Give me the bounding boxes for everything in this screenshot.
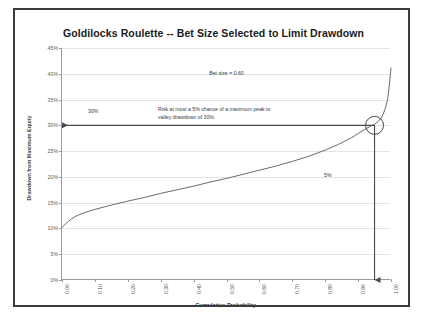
x-tick-label: 1.00 — [393, 284, 399, 294]
y-tick-label: 0% — [51, 277, 59, 283]
y-tick-label: 40% — [48, 71, 58, 77]
annotation-arrows — [62, 48, 391, 280]
chart-title: Goldilocks Roulette -- Bet Size Selected… — [15, 27, 412, 39]
x-tick-mark — [391, 279, 392, 282]
y-tick-label: 45% — [48, 45, 58, 51]
x-tick-label: 0.00 — [64, 284, 70, 294]
x-axis-title: Cumulative Probability — [61, 302, 390, 308]
y-tick-label: 25% — [48, 148, 58, 154]
x-tick-label: 0.40 — [196, 284, 202, 294]
x-tick-label: 0.10 — [97, 284, 103, 294]
y-axis-title: Drawdown from Maximum Equity — [26, 115, 32, 200]
x-tick-label: 0.50 — [229, 284, 235, 294]
y-tick-label: 5% — [51, 251, 59, 257]
y-tick-label: 30% — [48, 122, 58, 128]
x-tick-label: 0.20 — [130, 284, 136, 294]
risk-note-line-2: valley drawdown of 30%. — [158, 114, 270, 122]
y-tick-label: 10% — [48, 225, 58, 231]
probability-value-label: 5% — [324, 172, 332, 180]
x-tick-label: 0.30 — [163, 284, 169, 294]
x-tick-label: 0.70 — [294, 284, 300, 294]
risk-note-line-1: Risk at most a 5% chance of a maximum pe… — [158, 106, 270, 114]
x-tick-label: 0.80 — [327, 284, 333, 294]
x-tick-label: 0.90 — [360, 284, 366, 294]
chart-frame: Goldilocks Roulette -- Bet Size Selected… — [13, 8, 410, 307]
x-tick-label: 0.60 — [261, 284, 267, 294]
risk-note-annotation: Risk at most a 5% chance of a maximum pe… — [158, 106, 270, 121]
bet-size-annotation: Bet size = 0.60 — [62, 70, 391, 78]
y-tick-label: 35% — [48, 97, 58, 103]
drawdown-value-label: 30% — [88, 108, 98, 116]
y-tick-label: 20% — [48, 174, 58, 180]
plot-area: 0%5%10%15%20%25%30%35%40%45% 0.000.100.2… — [61, 48, 390, 280]
y-tick-label: 15% — [48, 200, 58, 206]
